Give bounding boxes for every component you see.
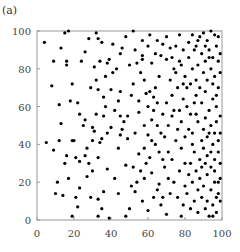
data-point xyxy=(91,169,94,172)
data-point xyxy=(146,45,149,48)
x-tick-label: 40 xyxy=(105,228,118,239)
data-point xyxy=(128,207,131,210)
data-point xyxy=(95,113,98,116)
panel-label: (a) xyxy=(2,4,17,17)
data-point xyxy=(193,200,196,203)
data-point xyxy=(208,56,211,59)
data-point xyxy=(150,171,153,174)
data-point xyxy=(89,86,92,89)
data-point xyxy=(137,152,140,155)
x-tick-label: 20 xyxy=(68,228,81,239)
data-point xyxy=(202,71,205,74)
data-point xyxy=(195,79,198,82)
data-point xyxy=(152,96,155,99)
data-point xyxy=(71,215,74,218)
data-point xyxy=(198,177,201,180)
data-point xyxy=(176,86,179,89)
data-point xyxy=(89,196,92,199)
data-point xyxy=(195,45,198,48)
data-point xyxy=(143,124,146,127)
data-point xyxy=(59,46,62,49)
data-point xyxy=(176,196,179,199)
data-point xyxy=(63,162,66,165)
data-point xyxy=(143,147,146,150)
data-point xyxy=(135,181,138,184)
data-point xyxy=(43,41,46,44)
data-point xyxy=(174,45,177,48)
data-point xyxy=(93,130,96,133)
data-point xyxy=(69,99,72,102)
data-point xyxy=(124,164,127,167)
data-point xyxy=(191,143,194,146)
data-point xyxy=(97,215,100,218)
data-point xyxy=(200,196,203,199)
data-point xyxy=(183,135,186,138)
data-point xyxy=(67,177,70,180)
data-point xyxy=(115,67,118,70)
data-point xyxy=(165,101,168,104)
data-point xyxy=(195,94,198,97)
data-point xyxy=(211,82,214,85)
data-point xyxy=(76,205,79,208)
data-point xyxy=(165,35,168,38)
data-point xyxy=(165,58,168,61)
data-point xyxy=(200,139,203,142)
data-point xyxy=(108,217,111,220)
data-point xyxy=(141,39,144,42)
data-point xyxy=(215,196,218,199)
data-point xyxy=(170,56,173,59)
data-point xyxy=(180,215,183,218)
data-point xyxy=(146,209,149,212)
data-point xyxy=(185,105,188,108)
data-point xyxy=(219,71,222,74)
data-point xyxy=(137,111,140,114)
data-point xyxy=(111,71,114,74)
data-point xyxy=(139,71,142,74)
data-point xyxy=(150,62,153,65)
data-point xyxy=(178,169,181,172)
data-point xyxy=(158,75,161,78)
data-point xyxy=(78,160,81,163)
data-point xyxy=(97,198,100,201)
data-point xyxy=(187,41,190,44)
data-point xyxy=(189,113,192,116)
y-tick-label: 0 xyxy=(25,215,31,226)
data-point xyxy=(219,52,222,55)
data-point xyxy=(165,213,168,216)
data-point xyxy=(163,166,166,169)
data-point xyxy=(124,35,127,38)
data-point xyxy=(191,67,194,70)
data-point xyxy=(204,162,207,165)
data-point xyxy=(126,137,129,140)
data-point xyxy=(204,60,207,63)
data-point xyxy=(198,158,201,161)
data-point xyxy=(58,139,61,142)
data-point xyxy=(213,169,216,172)
data-point xyxy=(134,190,137,193)
data-point xyxy=(215,105,218,108)
plot-frame xyxy=(37,31,222,220)
data-point xyxy=(159,132,162,135)
data-point xyxy=(119,133,122,136)
data-point xyxy=(67,29,70,32)
data-point xyxy=(217,35,220,38)
data-point xyxy=(156,124,159,127)
data-point xyxy=(200,166,203,169)
data-point xyxy=(159,203,162,206)
data-point xyxy=(106,167,109,170)
plot-area: 020406080100020406080100 xyxy=(0,0,240,252)
data-point xyxy=(134,48,137,51)
y-tick-label: 60 xyxy=(18,102,31,113)
data-point xyxy=(91,126,94,129)
data-point xyxy=(213,158,216,161)
data-point xyxy=(213,33,216,36)
data-point xyxy=(132,82,135,85)
data-point xyxy=(124,215,127,218)
data-point xyxy=(174,71,177,74)
data-point xyxy=(183,162,186,165)
data-point xyxy=(106,62,109,65)
data-point xyxy=(84,118,87,121)
data-point xyxy=(167,177,170,180)
data-point xyxy=(211,143,214,146)
data-point xyxy=(193,150,196,153)
